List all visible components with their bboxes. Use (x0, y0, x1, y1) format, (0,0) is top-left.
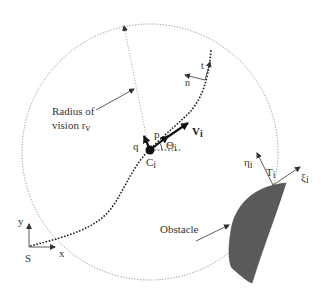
radius-label-line2: vision rv (52, 119, 90, 133)
radius-pointer-arrow (96, 89, 134, 110)
obstacle-pointer-arrow (196, 225, 229, 241)
obstacle-label: Obstacle (160, 223, 199, 235)
velocity-label: Vi (192, 125, 203, 139)
y-label: y (18, 215, 24, 227)
x-label: x (59, 247, 65, 259)
theta-label: Θi (166, 139, 177, 153)
robot-vision-diagram: Radius of vision rv t n p q Vi Θi Ci ηi … (0, 0, 325, 290)
tt-label: Ti (266, 166, 276, 180)
radius-label-line1: Radius of (52, 105, 95, 117)
c-label: Ci (146, 156, 156, 170)
obstacle-shape (229, 183, 286, 283)
trajectory-path (30, 50, 211, 246)
p-label: p (154, 128, 160, 140)
eta-label: ηi (244, 156, 253, 170)
n-label: n (185, 77, 190, 88)
s-label: S (25, 252, 31, 264)
velocity-arrow (166, 123, 188, 138)
t-arrow (205, 62, 210, 80)
radius-line (124, 26, 149, 150)
xi-label: ξi (301, 171, 309, 185)
t-label: t (201, 60, 204, 71)
q-label: q (133, 140, 139, 152)
